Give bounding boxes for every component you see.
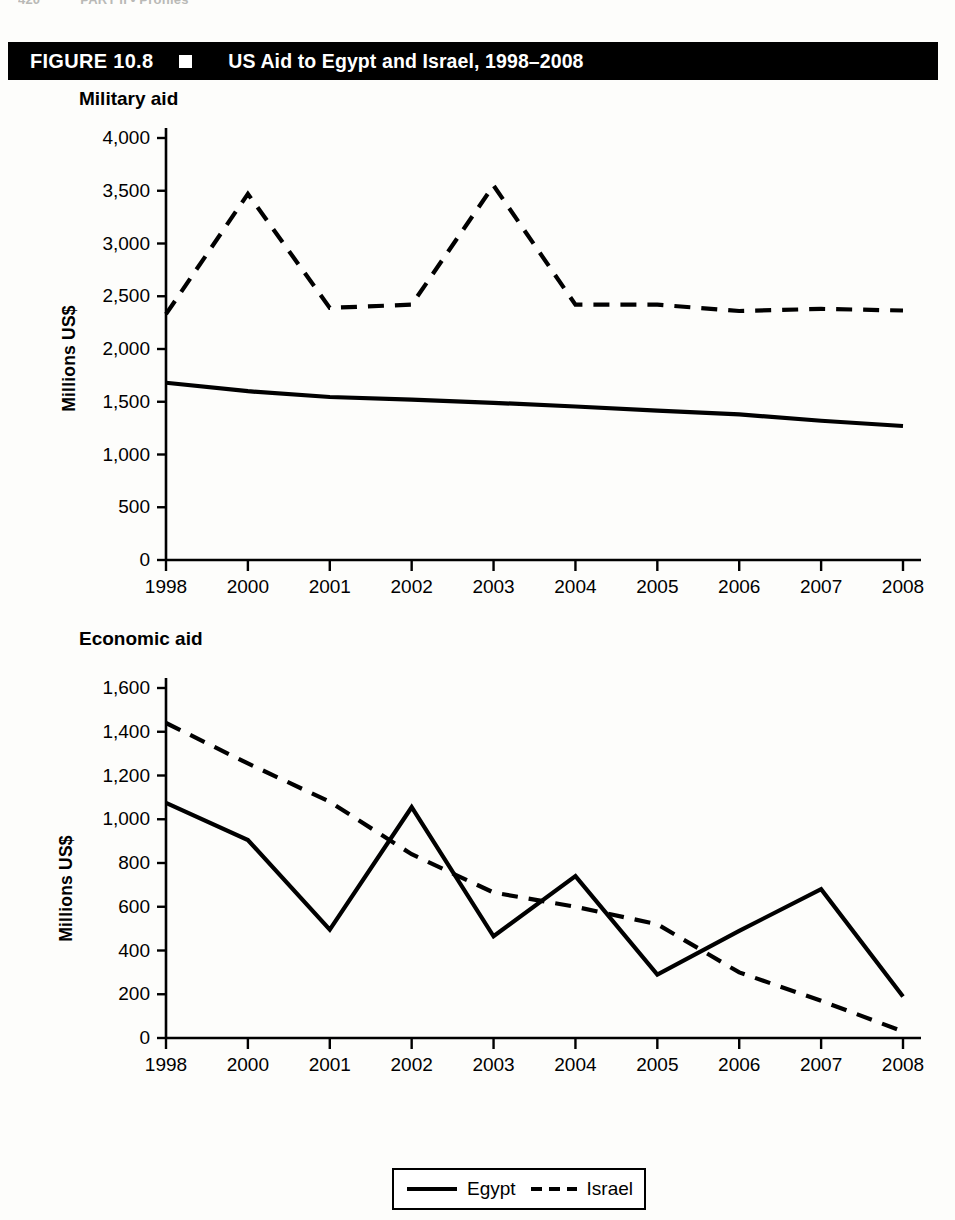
running-head: 420 PART II • Profiles — [18, 0, 518, 22]
chart-panel-military-aid: Military aid Millions US$ 05001,0001,500… — [0, 88, 955, 588]
series-line-egypt — [166, 383, 903, 426]
chart-legend: Egypt Israel — [392, 1168, 646, 1210]
legend-item-israel: Israel — [529, 1178, 633, 1200]
figure-title-bar: FIGURE 10.8 US Aid to Egypt and Israel, … — [8, 42, 938, 80]
figure-number: FIGURE 10.8 — [30, 50, 153, 73]
legend-line-solid-icon — [405, 1182, 459, 1196]
running-head-section: PART II • Profiles — [80, 0, 188, 7]
legend-item-egypt: Egypt — [405, 1178, 516, 1200]
running-head-page-number: 420 — [18, 0, 40, 7]
filled-square-icon — [179, 55, 192, 68]
series-line-israel — [166, 723, 903, 1031]
series-line-israel — [166, 185, 903, 314]
legend-line-dashed-icon — [529, 1182, 579, 1196]
legend-label-egypt: Egypt — [467, 1178, 516, 1200]
figure-title: US Aid to Egypt and Israel, 1998–2008 — [228, 50, 583, 73]
plot-area-military-aid — [0, 88, 955, 588]
chart-panel-economic-aid: Economic aid Millions US$ 02004006008001… — [0, 628, 955, 1138]
legend-label-israel: Israel — [587, 1178, 633, 1200]
plot-area-economic-aid — [0, 628, 955, 1138]
